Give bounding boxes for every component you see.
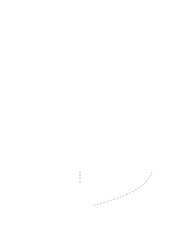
connector-right-dashed [92, 172, 152, 206]
crochet-chart [0, 0, 175, 238]
